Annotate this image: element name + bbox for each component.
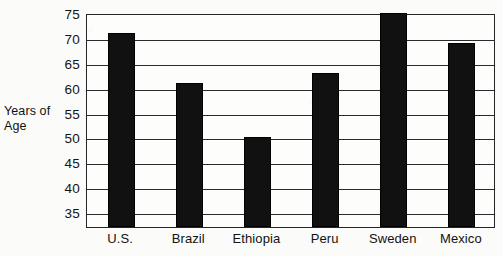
x-axis-label-peru: Peru xyxy=(311,231,339,246)
bar-ethiopia xyxy=(244,137,271,227)
gridline-60 xyxy=(87,90,494,91)
gridline-45 xyxy=(87,164,494,165)
y-axis-tick-label: 60 xyxy=(46,81,80,96)
gridline-35 xyxy=(87,214,494,215)
bar-sweden xyxy=(380,13,407,227)
bar-mexico xyxy=(448,43,475,227)
x-axis-label-sweden: Sweden xyxy=(369,231,417,246)
y-axis-tick-label: 40 xyxy=(46,181,80,196)
x-axis-label-brazil: Brazil xyxy=(172,231,205,246)
gridline-55 xyxy=(87,115,494,116)
x-axis-label-u-s: U.S. xyxy=(107,231,133,246)
y-axis-tick-label: 70 xyxy=(46,31,80,46)
y-axis-tick-label: 45 xyxy=(46,156,80,171)
bar-peru xyxy=(312,73,339,227)
plot-area xyxy=(86,14,495,228)
x-axis-label-ethiopia: Ethiopia xyxy=(233,231,281,246)
gridline-70 xyxy=(87,40,494,41)
y-axis-tick-label: 75 xyxy=(46,7,80,22)
y-axis-tick-label: 65 xyxy=(46,56,80,71)
bar-chart-figure: Years of Age 354045505560657075U.S.Brazi… xyxy=(0,0,503,256)
bar-brazil xyxy=(176,83,203,227)
y-axis-tick-label: 50 xyxy=(46,131,80,146)
y-axis-tick-label: 55 xyxy=(46,106,80,121)
x-axis-label-mexico: Mexico xyxy=(440,231,482,246)
gridline-50 xyxy=(87,139,494,140)
gridline-40 xyxy=(87,189,494,190)
y-axis-tick-label: 35 xyxy=(46,206,80,221)
bar-u-s xyxy=(108,33,135,227)
gridline-65 xyxy=(87,65,494,66)
